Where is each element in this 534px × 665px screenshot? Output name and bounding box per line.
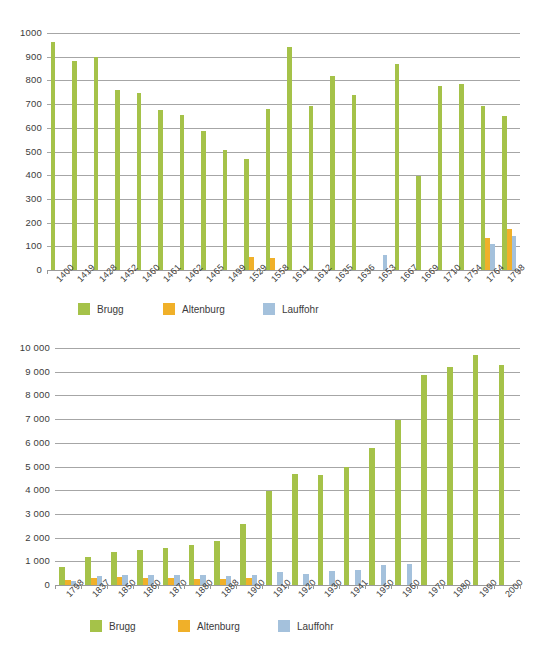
bar-brugg-1900 xyxy=(240,524,246,585)
chart-1-legend: Brugg Altenburg Lauffohr xyxy=(78,303,319,315)
x-axis-tickmark xyxy=(236,585,237,589)
bar-brugg-1754 xyxy=(459,84,464,270)
legend2-item-lauffohr: Lauffohr xyxy=(278,620,334,632)
legend-item-altenburg: Altenburg xyxy=(163,303,263,315)
y-axis-tick-label: 600 xyxy=(0,123,42,133)
x-axis-tickmark xyxy=(184,585,185,589)
bar-brugg-1930 xyxy=(318,475,324,585)
bar-brugg-1920 xyxy=(292,474,298,585)
y-axis-tick-label: 0 xyxy=(0,580,50,590)
legend-swatch-brugg xyxy=(78,303,90,315)
x-axis-tickmark xyxy=(133,270,134,274)
y-axis-tick-label: 800 xyxy=(0,75,42,85)
y-axis-tick-label: 1000 xyxy=(0,28,42,38)
x-axis-tickmark xyxy=(477,270,478,274)
y-axis-tick-label: 400 xyxy=(0,170,42,180)
legend2-item-brugg: Brugg xyxy=(90,620,178,632)
y-axis-tick-label: 0 xyxy=(0,265,42,275)
chart-1-plot: 10009008007006005004003002001000 1400141… xyxy=(0,0,534,295)
bar-brugg-1636 xyxy=(352,95,357,270)
bar-brugg-1558 xyxy=(266,109,271,270)
x-axis-tickmark xyxy=(391,585,392,589)
x-axis-tickmark xyxy=(520,585,521,589)
y-axis-tick-label: 500 xyxy=(0,147,42,157)
y-axis-tick-label: 2 000 xyxy=(0,533,50,543)
chart-2-plot-area xyxy=(55,348,520,585)
bar-brugg-1910 xyxy=(266,491,272,585)
legend2-swatch-brugg xyxy=(90,620,102,632)
bar-brugg-1669 xyxy=(416,176,421,270)
bar-altenburg-1558 xyxy=(270,258,275,270)
bar-altenburg-1529 xyxy=(249,257,254,270)
y-axis-tick-label: 300 xyxy=(0,194,42,204)
y-axis-tick-label: 4 000 xyxy=(0,485,50,495)
bar-brugg-1970 xyxy=(421,375,427,585)
x-axis-tickmark xyxy=(365,585,366,589)
x-axis-tickmark xyxy=(413,270,414,274)
legend2-swatch-altenburg xyxy=(178,620,190,632)
x-axis-tickmark xyxy=(55,585,56,589)
x-axis-tickmark xyxy=(494,585,495,589)
x-axis-tickmark xyxy=(468,585,469,589)
y-axis-tick-label: 6 000 xyxy=(0,438,50,448)
y-axis-tick-label: 900 xyxy=(0,52,42,62)
x-axis-tickmark xyxy=(47,270,48,274)
bar-brugg-1460 xyxy=(137,93,142,270)
x-axis-tickmark xyxy=(417,585,418,589)
y-axis-tick-label: 3 000 xyxy=(0,509,50,519)
bar-brugg-1980 xyxy=(447,367,453,585)
bar-brugg-2000 xyxy=(499,365,505,585)
x-axis-tickmark xyxy=(219,270,220,274)
x-axis-tickmark xyxy=(339,585,340,589)
x-axis-tickmark xyxy=(210,585,211,589)
x-axis-tickmark xyxy=(107,585,108,589)
x-axis-tickmark xyxy=(520,270,521,274)
chart-2-legend: Brugg Altenburg Lauffohr xyxy=(90,620,334,632)
legend2-label-brugg: Brugg xyxy=(109,621,136,632)
x-axis-tickmark xyxy=(443,585,444,589)
x-axis-tickmark xyxy=(176,270,177,274)
y-axis-tick-label: 8 000 xyxy=(0,390,50,400)
bar-brugg-1400 xyxy=(51,42,56,270)
y-axis-tick-label: 200 xyxy=(0,218,42,228)
legend2-item-altenburg: Altenburg xyxy=(178,620,278,632)
bar-brugg-1461 xyxy=(158,110,163,270)
gridline xyxy=(47,57,520,58)
y-axis-tick-label: 100 xyxy=(0,241,42,251)
y-axis-tick-label: 7 000 xyxy=(0,414,50,424)
gridline xyxy=(47,33,520,34)
legend-label-altenburg: Altenburg xyxy=(182,304,225,315)
legend2-swatch-lauffohr xyxy=(278,620,290,632)
legend-item-brugg: Brugg xyxy=(78,303,163,315)
bar-brugg-1941 xyxy=(344,467,350,586)
bar-brugg-1990 xyxy=(473,355,479,585)
y-axis-tick-label: 9 000 xyxy=(0,367,50,377)
x-axis-tickmark xyxy=(313,585,314,589)
bar-brugg-1419 xyxy=(72,61,77,270)
x-axis-tickmark xyxy=(158,585,159,589)
x-axis-tickmark xyxy=(198,270,199,274)
x-axis-tickmark xyxy=(262,585,263,589)
legend2-label-altenburg: Altenburg xyxy=(197,621,240,632)
bar-brugg-1452 xyxy=(115,90,120,270)
x-axis-tickmark xyxy=(288,585,289,589)
bar-brugg-1529 xyxy=(244,159,249,270)
x-axis-tickmark xyxy=(81,585,82,589)
y-axis-tick-label: 1 000 xyxy=(0,556,50,566)
x-axis-tickmark xyxy=(305,270,306,274)
legend-item-lauffohr: Lauffohr xyxy=(263,303,319,315)
bar-brugg-1612 xyxy=(309,106,314,270)
y-axis-tick-label: 700 xyxy=(0,99,42,109)
legend2-label-lauffohr: Lauffohr xyxy=(297,621,334,632)
bar-brugg-1635 xyxy=(330,76,335,270)
x-axis-tickmark xyxy=(112,270,113,274)
x-axis-tickmark xyxy=(241,270,242,274)
bar-brugg-1611 xyxy=(287,47,292,270)
x-axis-tickmark xyxy=(499,270,500,274)
chart-block-historic: 10009008007006005004003002001000 1400141… xyxy=(0,0,534,330)
x-axis-tickmark xyxy=(69,270,70,274)
bar-brugg-1465 xyxy=(201,131,206,270)
gridline xyxy=(55,348,520,349)
legend-label-brugg: Brugg xyxy=(97,304,124,315)
x-axis-tickmark xyxy=(348,270,349,274)
